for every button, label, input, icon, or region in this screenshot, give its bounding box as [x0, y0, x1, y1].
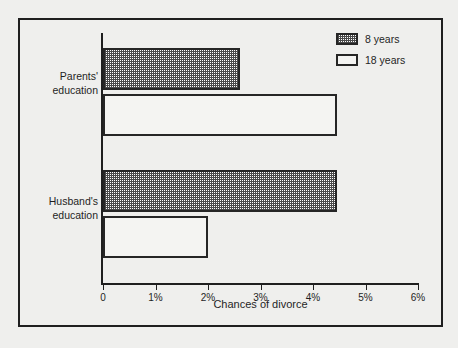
- legend-label-8-years: 8 years: [365, 33, 399, 45]
- x-axis-tick: [366, 283, 367, 290]
- legend-swatch-icon-8-years: [336, 33, 358, 45]
- category-label-line1: Husband's: [24, 195, 98, 209]
- x-axis-tick: [261, 283, 262, 290]
- chart-legend: 8 years 18 years: [336, 32, 432, 74]
- legend-item-8-years[interactable]: 8 years: [336, 32, 432, 45]
- chart-figure: Parents' education Husband's education 0…: [0, 0, 458, 348]
- category-label-husbands-education: Husband's education: [24, 195, 98, 222]
- legend-swatch-icon-18-years: [336, 54, 358, 66]
- legend-item-18-years[interactable]: 18 years: [336, 53, 432, 66]
- x-axis-tick: [208, 283, 209, 290]
- bar-18-years-parents-education[interactable]: [103, 94, 337, 136]
- x-axis-line: [101, 283, 418, 285]
- x-axis-tick: [156, 283, 157, 290]
- bar-18-years-husband-s-education[interactable]: [103, 216, 208, 258]
- bar-8-years-parents-education[interactable]: [103, 48, 240, 90]
- x-axis-tick: [103, 283, 104, 290]
- category-label-line1: Parents': [24, 70, 98, 84]
- x-axis-title: Chances of divorce: [103, 298, 418, 310]
- category-label-line2: education: [24, 209, 98, 223]
- category-label-line2: education: [24, 84, 98, 98]
- category-label-parents-education: Parents' education: [24, 70, 98, 97]
- legend-label-18-years: 18 years: [365, 54, 405, 66]
- bar-8-years-husband-s-education[interactable]: [103, 170, 337, 212]
- x-axis-tick: [418, 283, 419, 290]
- x-axis-tick: [313, 283, 314, 290]
